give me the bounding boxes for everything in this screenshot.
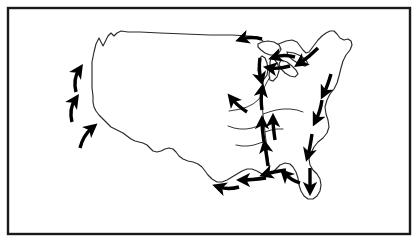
great-lakes-arrow-west-2 (275, 56, 295, 58)
gulf-arrow-west-4 (219, 187, 239, 189)
mississippi-arrow-north-4 (261, 90, 262, 110)
figure-root: Outline map of the contiguous United Sta… (0, 0, 418, 245)
mississippi-arrow-north-2 (262, 122, 264, 142)
mississippi-arrow-north-3 (273, 120, 275, 140)
great-lakes-arrow-south-1 (259, 58, 261, 79)
great-lakes-arrow-west-1 (242, 38, 262, 40)
gulf-arrow-west-3 (243, 178, 266, 180)
us-migration-map: Outline map of the contiguous United Sta… (0, 0, 418, 245)
